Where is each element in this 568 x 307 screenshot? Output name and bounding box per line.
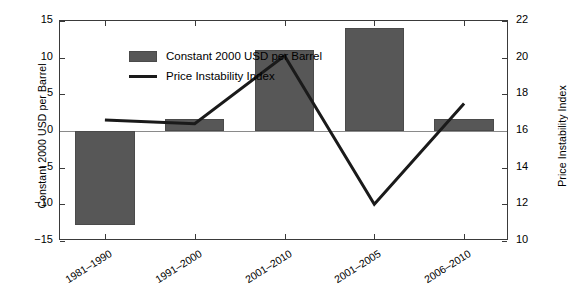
x-axis-tick-label: 2001–2010 [240,248,293,287]
legend-label-bar: Constant 2000 USD per Barrel [166,50,322,62]
y-axis-right-tick-label: 16 [516,124,556,135]
y-axis-right-tick [502,241,507,242]
legend-item-line: Price Instability Index [123,66,343,86]
y-axis-left-tick-label: −15 [7,234,53,245]
x-axis-top-tick [374,21,375,26]
x-axis-tick-label: 2001–2005 [330,248,383,287]
x-axis-tick-label: 1991–2000 [150,248,203,287]
y-axis-right-tick-label: 12 [516,197,556,208]
y-axis-right-tick-label: 20 [516,51,556,62]
y-axis-right-tick [502,94,507,95]
y-axis-right-tick-label: 14 [516,161,556,172]
x-axis-tick [285,234,286,239]
y-axis-right-tick-label: 18 [516,87,556,98]
y-axis-left-tick-label: 10 [7,51,53,62]
y-axis-right-tick-label: 10 [516,234,556,245]
y-axis-right-tick [502,168,507,169]
y-axis-left-tick-label: −10 [7,197,53,208]
y-axis-left-tick-label: 5 [7,87,53,98]
bar [75,131,134,225]
bar [345,28,404,131]
y-axis-right-tick [502,58,507,59]
x-axis-tick-label: 1981–1990 [60,248,113,287]
y-axis-left-tick [60,94,65,95]
y-axis-right-tick [502,21,507,22]
y-axis-right-tick-label: 22 [516,14,556,25]
y-axis-left-tick-label: 0 [7,124,53,135]
legend-line-swatch-icon [129,75,157,78]
x-axis-top-tick [105,21,106,26]
y-axis-right-tick [502,204,507,205]
y-axis-left-tick-label: −5 [7,161,53,172]
x-axis-tick [464,234,465,239]
x-axis-tick-label: 2006–2010 [420,248,473,287]
x-axis-tick [105,234,106,239]
y-axis-left-tick [60,204,65,205]
x-axis-top-tick [285,21,286,26]
bar [165,119,224,131]
bar [434,119,493,131]
legend-item-bar: Constant 2000 USD per Barrel [123,46,343,66]
y-axis-left-tick-label: 15 [7,14,53,25]
y-axis-right-title: Price Instability Index [556,26,568,246]
y-axis-left-tick [60,168,65,169]
plot-area: Constant 2000 USD per Barrel Price Insta… [59,20,508,240]
legend-bar-swatch-icon [129,51,157,62]
x-axis-top-tick [464,21,465,26]
y-axis-left-tick [60,58,65,59]
x-axis-tick [374,234,375,239]
legend-label-line: Price Instability Index [166,70,275,82]
x-axis-top-tick [195,21,196,26]
y-axis-left-tick [60,241,65,242]
chart-legend: Constant 2000 USD per Barrel Price Insta… [123,44,343,86]
x-axis-tick [195,234,196,239]
y-axis-left-tick [60,21,65,22]
